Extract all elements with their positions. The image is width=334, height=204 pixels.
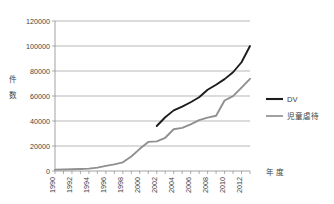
y-tick-label: 80000 — [30, 67, 50, 76]
x-tick-label: 1992 — [65, 177, 74, 193]
y-axis-title-char: 数 — [9, 90, 17, 100]
y-axis-title: 件数 — [9, 74, 17, 100]
y-tick-label: 120000 — [26, 17, 50, 26]
y-axis-title-char: 件 — [9, 74, 17, 84]
x-tick-label: 2006 — [184, 177, 193, 193]
series-line-child-abuse — [55, 79, 250, 170]
axis-ticks — [52, 21, 250, 174]
x-tick-label: 2004 — [167, 177, 176, 193]
data-series-group — [55, 46, 250, 170]
y-tick-label: 0 — [46, 167, 50, 176]
y-tick-label: 100000 — [26, 42, 50, 51]
y-tick-label: 20000 — [30, 142, 50, 151]
series-line-dv — [157, 46, 250, 126]
x-axis-title-text: 年 度 — [266, 167, 284, 177]
legend-label-child-abuse: 児童虐待 — [287, 111, 319, 121]
x-tick-label: 1996 — [99, 177, 108, 193]
y-tick-label: 40000 — [30, 117, 50, 126]
x-tick-label: 1998 — [116, 177, 125, 193]
x-axis-tick-labels: 1990199219941996199820002002200420062008… — [48, 177, 244, 193]
x-tick-label: 1990 — [48, 177, 57, 193]
x-tick-label: 2010 — [218, 177, 227, 193]
gridlines — [55, 21, 250, 146]
chart-container: 020000400006000080000100000120000 199019… — [0, 0, 334, 204]
x-tick-label: 2002 — [150, 177, 159, 193]
chart-legend: DV児童虐待 — [266, 95, 319, 121]
legend-label-dv: DV — [287, 95, 298, 104]
x-tick-label: 1994 — [82, 177, 91, 193]
y-axis-tick-labels: 020000400006000080000100000120000 — [26, 17, 50, 176]
y-tick-label: 60000 — [30, 92, 50, 101]
x-tick-label: 2008 — [201, 177, 210, 193]
x-tick-label: 2000 — [133, 177, 142, 193]
line-chart: 020000400006000080000100000120000 199019… — [0, 0, 334, 204]
x-tick-label: 2012 — [235, 177, 244, 193]
x-axis-title: 年 度 — [266, 167, 284, 177]
